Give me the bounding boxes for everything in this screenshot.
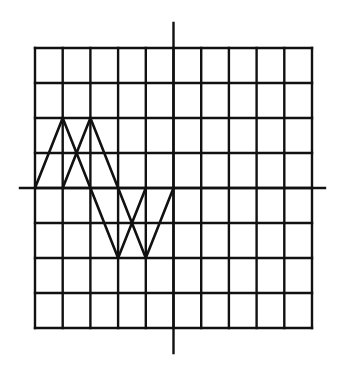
waveform-grid-diagram xyxy=(0,0,342,367)
